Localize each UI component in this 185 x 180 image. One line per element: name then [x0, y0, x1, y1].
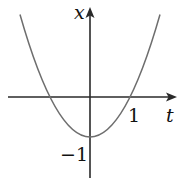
x-axis-label: x: [74, 1, 85, 23]
tick-label-one: 1: [128, 104, 140, 126]
t-axis-label: t: [166, 104, 174, 126]
parabola-chart: x t 1 −1: [0, 0, 185, 180]
tick-label-minus-one: −1: [60, 143, 88, 165]
